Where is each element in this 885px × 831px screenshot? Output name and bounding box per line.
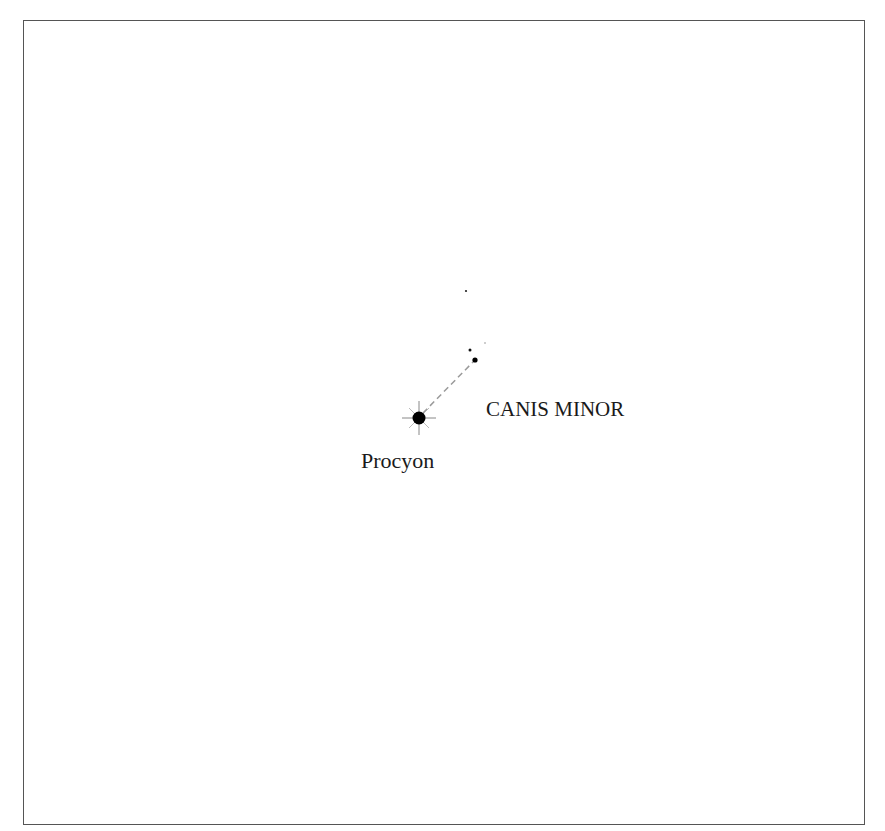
gomeisa-star-icon[interactable] [472,357,477,362]
star-label-procyon: Procyon [361,448,434,474]
constellation-line [423,362,473,413]
star-icon[interactable] [469,349,472,352]
star-icon[interactable] [484,342,485,343]
constellation-label: CANIS MINOR [486,397,624,422]
star-icon[interactable] [465,290,467,292]
star-chart [0,0,885,831]
procyon-star-icon[interactable] [402,401,436,435]
